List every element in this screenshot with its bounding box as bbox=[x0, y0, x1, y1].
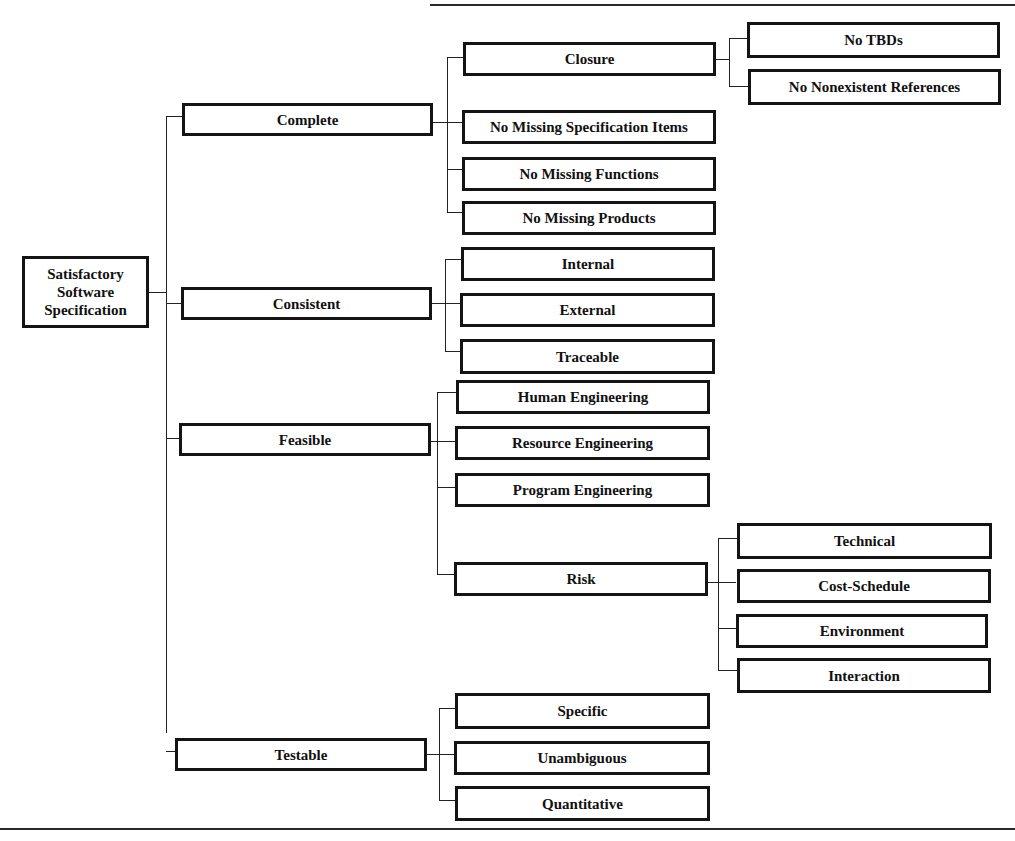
node-risk: Risk bbox=[454, 562, 708, 596]
node-label: Internal bbox=[562, 255, 615, 273]
connector bbox=[718, 670, 737, 671]
node-traceable: Traceable bbox=[460, 339, 715, 374]
node-closure: Closure bbox=[463, 42, 716, 76]
node-label: Cost-Schedule bbox=[818, 577, 910, 595]
node-label: Technical bbox=[834, 532, 895, 550]
node-quantitative: Quantitative bbox=[455, 786, 710, 821]
node-external: External bbox=[460, 293, 715, 327]
connector bbox=[437, 487, 455, 488]
root-line-1: Satisfactory bbox=[47, 265, 124, 283]
root-line-2: Software bbox=[57, 283, 114, 301]
connector bbox=[447, 169, 462, 170]
node-label: Traceable bbox=[556, 348, 619, 366]
connector bbox=[439, 800, 455, 801]
node-label: Unambiguous bbox=[537, 749, 626, 767]
node-testable: Testable bbox=[175, 738, 427, 771]
connector bbox=[445, 259, 462, 260]
node-label: No TBDs bbox=[844, 31, 903, 49]
connector bbox=[447, 57, 463, 58]
node-consistent: Consistent bbox=[181, 287, 432, 320]
node-label: No Missing Products bbox=[522, 209, 655, 227]
node-label: Quantitative bbox=[542, 795, 623, 813]
node-human-engineering: Human Engineering bbox=[456, 380, 710, 414]
node-label: Specific bbox=[558, 702, 608, 720]
node-label: No Missing Specification Items bbox=[490, 118, 688, 136]
connector bbox=[437, 392, 456, 393]
trunk-connector bbox=[166, 116, 167, 733]
node-specific: Specific bbox=[455, 693, 710, 729]
connector bbox=[729, 38, 748, 39]
root-line-3: Specification bbox=[44, 301, 127, 319]
node-label: Human Engineering bbox=[518, 388, 648, 406]
root-node-satisfactory-software-specification: Satisfactory Software Specification bbox=[22, 256, 149, 328]
branch-connector bbox=[718, 538, 719, 670]
connector bbox=[166, 116, 182, 117]
top-rule bbox=[430, 4, 1015, 6]
node-unambiguous: Unambiguous bbox=[454, 741, 710, 775]
connector bbox=[439, 708, 455, 709]
node-label: Complete bbox=[277, 111, 339, 129]
branch-connector bbox=[447, 57, 448, 212]
node-feasible: Feasible bbox=[179, 423, 431, 456]
node-label: Consistent bbox=[273, 295, 341, 313]
node-label: Program Engineering bbox=[513, 481, 652, 499]
bottom-rule bbox=[0, 828, 1015, 830]
connector bbox=[433, 122, 463, 123]
node-no-missing-functions: No Missing Functions bbox=[462, 157, 716, 191]
node-label: Closure bbox=[565, 50, 615, 68]
node-no-nonexistent-references: No Nonexistent References bbox=[748, 69, 1001, 105]
node-label: Feasible bbox=[279, 431, 332, 449]
node-internal: Internal bbox=[461, 247, 715, 281]
connector bbox=[166, 438, 180, 439]
connector bbox=[432, 303, 462, 304]
node-interaction: Interaction bbox=[737, 658, 991, 693]
node-label: No Missing Functions bbox=[519, 165, 658, 183]
node-no-missing-products: No Missing Products bbox=[462, 201, 716, 235]
connector bbox=[445, 351, 461, 352]
connector bbox=[149, 292, 166, 293]
node-label: Testable bbox=[275, 746, 328, 764]
branch-connector bbox=[729, 38, 730, 86]
branch-connector bbox=[437, 392, 438, 574]
node-technical: Technical bbox=[737, 523, 992, 559]
node-complete: Complete bbox=[182, 103, 433, 136]
connector bbox=[716, 59, 729, 60]
node-environment: Environment bbox=[736, 614, 988, 648]
connector bbox=[427, 754, 455, 755]
node-label: Risk bbox=[566, 570, 595, 588]
connector bbox=[166, 303, 182, 304]
node-program-engineering: Program Engineering bbox=[455, 473, 710, 507]
node-label: External bbox=[560, 301, 616, 319]
node-no-tbds: No TBDs bbox=[747, 22, 1000, 58]
connector bbox=[431, 441, 457, 442]
node-label: Interaction bbox=[828, 667, 900, 685]
connector bbox=[447, 212, 462, 213]
node-label: Resource Engineering bbox=[512, 434, 653, 452]
branch-connector bbox=[439, 708, 440, 800]
branch-connector bbox=[445, 259, 446, 351]
node-label: No Nonexistent References bbox=[789, 78, 960, 96]
node-cost-schedule: Cost-Schedule bbox=[737, 569, 991, 603]
node-no-missing-specification-items: No Missing Specification Items bbox=[462, 110, 716, 144]
node-resource-engineering: Resource Engineering bbox=[455, 426, 710, 460]
connector bbox=[708, 582, 736, 583]
connector bbox=[729, 86, 748, 87]
node-label: Environment bbox=[820, 622, 905, 640]
connector bbox=[718, 628, 736, 629]
connector bbox=[718, 538, 737, 539]
